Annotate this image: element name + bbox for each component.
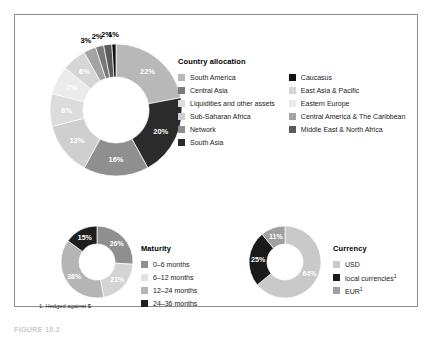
legend-item-label: Eastern Europe bbox=[301, 99, 350, 108]
legend-swatch-icon bbox=[289, 100, 296, 107]
legend-item-label: 0–6 months bbox=[153, 260, 190, 269]
donut-slice-label: 3% bbox=[80, 36, 91, 45]
legend-item[interactable]: USD bbox=[333, 258, 396, 271]
legend-item[interactable]: 24–36 months bbox=[141, 297, 197, 310]
currency-legend-column: USDlocal currencies1EUR1 bbox=[333, 258, 396, 297]
legend-swatch-icon bbox=[289, 87, 296, 94]
legend-swatch-icon bbox=[178, 87, 185, 94]
legend-item-label: 6–12 months bbox=[153, 273, 193, 282]
donut-slice bbox=[116, 44, 181, 104]
legend-item[interactable]: local currencies1 bbox=[333, 271, 396, 284]
legend-item-label: Liquidities and other assets bbox=[190, 99, 275, 108]
legend-item-label: Sub-Saharan Africa bbox=[190, 112, 251, 121]
legend-swatch-icon bbox=[333, 274, 340, 281]
figure-caption: FIGURE 10.2 bbox=[14, 326, 60, 333]
donut-slice-label: 2% bbox=[101, 31, 112, 39]
legend-swatch-icon bbox=[178, 113, 185, 120]
legend-item[interactable]: EUR1 bbox=[333, 284, 396, 297]
legend-item-label: 12–24 months bbox=[153, 286, 197, 295]
legend-footnote-marker: 1 bbox=[360, 286, 363, 292]
country-allocation-legend-title: Country allocation bbox=[178, 57, 405, 66]
legend-item-label: Central Asia bbox=[190, 86, 228, 95]
legend-item[interactable]: Central Asia bbox=[178, 84, 275, 97]
donut-slice-label: 2% bbox=[92, 32, 103, 41]
legend-item[interactable]: Caucasus bbox=[289, 71, 406, 84]
legend-item-label: 24–36 months bbox=[153, 299, 197, 308]
legend-item[interactable]: Sub-Saharan Africa bbox=[178, 110, 275, 123]
legend-item[interactable]: South America bbox=[178, 71, 275, 84]
legend-item[interactable]: Eastern Europe bbox=[289, 97, 406, 110]
country-allocation-legend-column-left: South AmericaCentral AsiaLiquidities and… bbox=[178, 71, 275, 149]
legend-swatch-icon bbox=[178, 100, 185, 107]
legend-swatch-icon bbox=[141, 287, 148, 294]
legend-swatch-icon bbox=[289, 126, 296, 133]
legend-item-label: Middle East & North Africa bbox=[301, 125, 383, 134]
currency-legend: Currency USDlocal currencies1EUR1 bbox=[333, 244, 396, 297]
legend-item[interactable]: Liquidities and other assets bbox=[178, 97, 275, 110]
legend-swatch-icon bbox=[178, 74, 185, 81]
legend-item[interactable]: Central America & The Caribbean bbox=[289, 110, 406, 123]
currency-legend-title: Currency bbox=[333, 244, 396, 253]
legend-item-label: Network bbox=[190, 125, 216, 134]
legend-swatch-icon bbox=[289, 113, 296, 120]
footnote-hedged: 1. Hedged against $ bbox=[39, 303, 91, 309]
legend-item-label: local currencies1 bbox=[345, 272, 396, 283]
donut-slice bbox=[100, 263, 133, 297]
donut-slice bbox=[97, 226, 133, 264]
country-allocation-donut-chart: 22%20%16%13%8%7%6%3%2%2%1% bbox=[37, 31, 195, 189]
legend-swatch-icon bbox=[141, 274, 148, 281]
legend-swatch-icon bbox=[178, 126, 185, 133]
country-allocation-legend: Country allocation South AmericaCentral … bbox=[178, 57, 405, 149]
legend-item[interactable]: 0–6 months bbox=[141, 258, 197, 271]
legend-swatch-icon bbox=[141, 261, 148, 268]
legend-item-label: Caucasus bbox=[301, 73, 332, 82]
legend-item[interactable]: Middle East & North Africa bbox=[289, 123, 406, 136]
maturity-donut-chart: 26%21%38%15% bbox=[55, 220, 139, 304]
maturity-legend: Maturity 0–6 months6–12 months12–24 mont… bbox=[141, 244, 197, 310]
legend-item-label: South Asia bbox=[190, 138, 223, 147]
legend-item[interactable]: East Asia & Pacific bbox=[289, 84, 406, 97]
legend-swatch-icon bbox=[289, 74, 296, 81]
legend-item-label: Central America & The Caribbean bbox=[301, 112, 406, 121]
maturity-legend-title: Maturity bbox=[141, 244, 197, 253]
country-allocation-legend-column-right: CaucasusEast Asia & PacificEastern Europ… bbox=[289, 71, 406, 149]
legend-item[interactable]: 6–12 months bbox=[141, 271, 197, 284]
legend-item[interactable]: 12–24 months bbox=[141, 284, 197, 297]
donut-slice-label: 1% bbox=[108, 31, 119, 39]
legend-swatch-icon bbox=[333, 261, 340, 268]
legend-swatch-icon bbox=[141, 300, 148, 307]
legend-item-label: EUR1 bbox=[345, 285, 363, 296]
currency-donut-chart: 64%25%11% bbox=[243, 220, 327, 304]
legend-swatch-icon bbox=[178, 139, 185, 146]
legend-item-label: East Asia & Pacific bbox=[301, 86, 359, 95]
legend-item-label: South America bbox=[190, 73, 236, 82]
legend-item-label: USD bbox=[345, 260, 360, 269]
legend-footnote-marker: 1 bbox=[394, 273, 397, 279]
figure-frame: 22%20%16%13%8%7%6%3%2%2%1% Country alloc… bbox=[14, 14, 418, 307]
legend-item[interactable]: South Asia bbox=[178, 136, 275, 149]
legend-item[interactable]: Network bbox=[178, 123, 275, 136]
legend-swatch-icon bbox=[333, 287, 340, 294]
maturity-legend-column: 0–6 months6–12 months12–24 months24–36 m… bbox=[141, 258, 197, 310]
